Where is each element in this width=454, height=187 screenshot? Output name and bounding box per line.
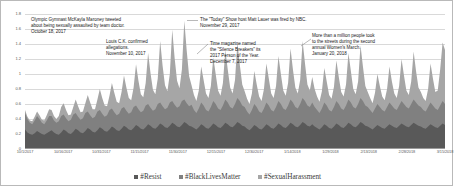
legend: #Resist #BlackLivesMatter #SexualHarassm…: [1, 173, 454, 181]
legend-item-blacklivesmatter[interactable]: #BlackLivesMatter: [179, 173, 241, 181]
legend-item-sexualharassment[interactable]: #SexualHarassment: [258, 173, 322, 181]
legend-swatch-resist: [134, 175, 138, 179]
legend-item-resist[interactable]: #Resist: [134, 173, 162, 181]
annotation-leader-lines: [1, 1, 454, 187]
legend-swatch-blacklivesmatter: [179, 175, 183, 179]
legend-label-blacklivesmatter: #BlackLivesMatter: [185, 173, 241, 181]
legend-label-sexualharassment: #SexualHarassment: [264, 173, 321, 181]
legend-label-resist: #Resist: [140, 173, 161, 181]
legend-swatch-sexualharassment: [258, 175, 262, 179]
